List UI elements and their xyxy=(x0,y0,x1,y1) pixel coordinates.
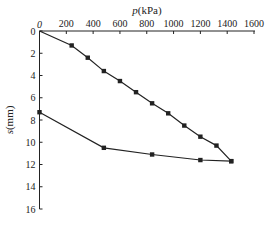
axes: 0200400600800100012001400160002468101214… xyxy=(26,18,265,215)
data-point-marker xyxy=(37,110,41,114)
data-series xyxy=(37,31,233,163)
y-tick-label: 16 xyxy=(26,204,36,215)
data-point-marker xyxy=(118,79,122,83)
data-point-marker xyxy=(134,90,138,94)
y-tick-label: 12 xyxy=(26,159,36,170)
data-point-marker xyxy=(69,43,73,47)
series-line-loading xyxy=(40,31,232,161)
x-tick-label: 1600 xyxy=(244,18,264,29)
settlement-load-chart: 0200400600800100012001400160002468101214… xyxy=(0,0,267,228)
data-point-marker xyxy=(182,123,186,127)
y-tick-label: 0 xyxy=(31,26,36,37)
data-point-marker xyxy=(150,152,154,156)
data-point-marker xyxy=(198,134,202,138)
x-tick-label: 200 xyxy=(59,18,74,29)
x-tick-label: 400 xyxy=(86,18,101,29)
x-tick-label: 0 xyxy=(37,19,42,30)
x-tick-label: 1000 xyxy=(164,18,184,29)
x-axis-title: p(kPa) xyxy=(131,4,162,17)
y-tick-label: 6 xyxy=(31,92,36,103)
data-point-marker xyxy=(102,69,106,73)
data-point-marker xyxy=(214,143,218,147)
x-tick-label: 800 xyxy=(139,18,154,29)
y-tick-label: 2 xyxy=(31,48,36,59)
y-tick-label: 4 xyxy=(31,70,36,81)
data-point-marker xyxy=(150,101,154,105)
y-tick-label: 14 xyxy=(26,181,36,192)
data-point-marker xyxy=(86,56,90,60)
data-point-marker xyxy=(198,158,202,162)
y-axis-title-unit: (mm) xyxy=(3,105,16,130)
y-axis-title: s(mm) xyxy=(3,105,16,134)
data-point-marker xyxy=(166,111,170,115)
y-tick-label: 8 xyxy=(31,115,36,126)
y-tick-label: 10 xyxy=(26,137,36,148)
data-point-marker xyxy=(229,159,233,163)
x-tick-label: 600 xyxy=(112,18,127,29)
x-tick-label: 1200 xyxy=(190,18,210,29)
x-axis-title-unit: (kPa) xyxy=(138,4,162,17)
data-point-marker xyxy=(102,146,106,150)
x-tick-label: 1400 xyxy=(217,18,237,29)
